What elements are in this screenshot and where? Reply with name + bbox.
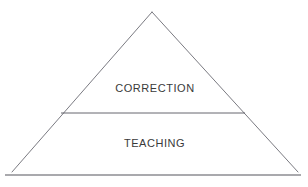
tier-label-teaching: TEACHING [0, 137, 308, 149]
tier-label-correction: CORRECTION [0, 82, 308, 94]
pyramid-diagram-canvas: CORRECTION TEACHING [0, 0, 308, 187]
